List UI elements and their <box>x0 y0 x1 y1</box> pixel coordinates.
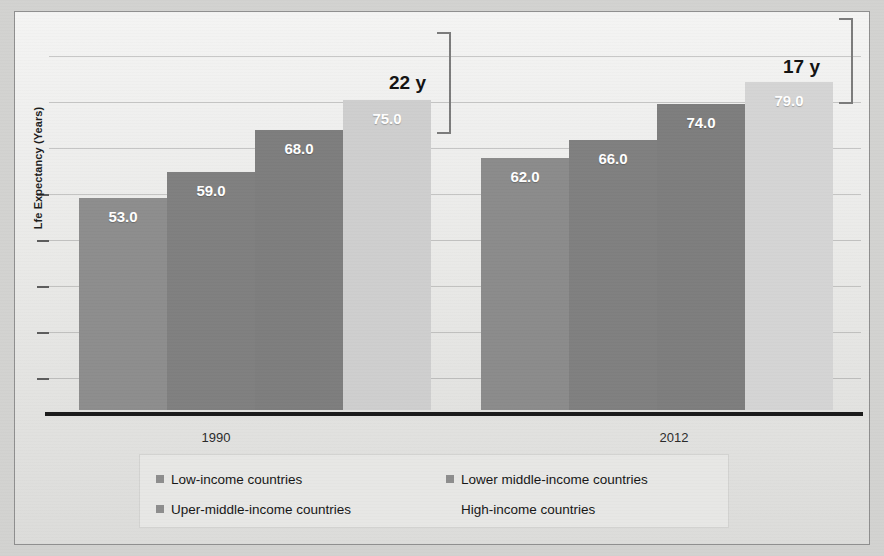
gap-annotation-1990: 22 y <box>389 72 426 94</box>
gap-bracket-2012 <box>839 18 853 104</box>
plot-area: 53.0 59.0 68.0 75.0 22 y 62.0 66.0 <box>49 20 861 410</box>
x-axis-label-2012: 2012 <box>619 430 729 445</box>
legend-item-low-income[interactable]: Low-income countries <box>156 472 446 487</box>
x-axis-line <box>45 412 863 416</box>
bar-2012-upper-middle-income[interactable]: 74.0 <box>657 104 745 410</box>
bar-value-label: 62.0 <box>481 168 569 185</box>
y-axis-tick <box>37 332 49 334</box>
bar-1990-upper-middle-income[interactable]: 68.0 <box>255 130 343 410</box>
bar-1990-low-income[interactable]: 53.0 <box>79 198 167 410</box>
y-axis-title: Lfe Expectancy (Years) <box>32 83 44 253</box>
bar-2012-lower-middle-income[interactable]: 66.0 <box>569 140 657 410</box>
bar-value-label: 59.0 <box>167 182 255 199</box>
legend-row: Uper-middle-income countries High-income… <box>156 494 712 524</box>
legend-swatch-icon <box>156 505 164 513</box>
legend-item-upper-middle-income[interactable]: Uper-middle-income countries <box>156 502 446 517</box>
legend-item-label: Low-income countries <box>171 472 302 487</box>
gap-bracket-1990 <box>437 32 451 134</box>
legend-swatch-icon <box>446 505 454 513</box>
legend-swatch-icon <box>446 475 454 483</box>
legend-swatch-icon <box>156 475 164 483</box>
bar-value-label: 75.0 <box>343 110 431 127</box>
bar-value-label: 79.0 <box>745 92 833 109</box>
bar-value-label: 68.0 <box>255 140 343 157</box>
legend-item-high-income[interactable]: High-income countries <box>446 502 595 517</box>
legend-item-label: Lower middle-income countries <box>461 472 648 487</box>
bar-2012-high-income[interactable]: 79.0 <box>745 82 833 410</box>
bar-2012-low-income[interactable]: 62.0 <box>481 158 569 410</box>
x-axis-label-1990: 1990 <box>161 430 271 445</box>
bar-1990-lower-middle-income[interactable]: 59.0 <box>167 172 255 410</box>
scanned-page: Lfe Expectancy (Years) 53.0 59.0 68.0 75… <box>0 0 884 556</box>
bar-1990-high-income[interactable]: 75.0 <box>343 100 431 410</box>
chart-legend: Low-income countries Lower middle-income… <box>139 454 729 528</box>
legend-item-lower-middle-income[interactable]: Lower middle-income countries <box>446 472 648 487</box>
bar-value-label: 74.0 <box>657 114 745 131</box>
bar-value-label: 66.0 <box>569 150 657 167</box>
gap-annotation-2012: 17 y <box>783 56 820 78</box>
chart-frame: Lfe Expectancy (Years) 53.0 59.0 68.0 75… <box>14 11 870 545</box>
bar-value-label: 53.0 <box>79 208 167 225</box>
y-axis-tick <box>37 378 49 380</box>
legend-item-label: Uper-middle-income countries <box>171 502 351 517</box>
y-axis-tick <box>37 286 49 288</box>
legend-row: Low-income countries Lower middle-income… <box>156 464 712 494</box>
legend-item-label: High-income countries <box>461 502 595 517</box>
